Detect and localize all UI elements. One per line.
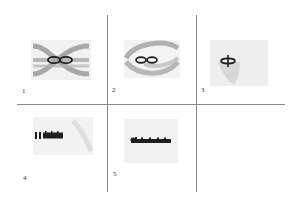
panel-2-image xyxy=(124,40,180,78)
panel-3: 3 xyxy=(197,15,285,104)
panel-4-label: 4 xyxy=(23,175,27,182)
panel-1-label: 1 xyxy=(22,88,26,95)
panel-4: 4 xyxy=(17,105,107,192)
panel-2: 2 xyxy=(108,15,196,104)
panel-3-image xyxy=(210,40,268,86)
panel-5: 5 xyxy=(108,105,196,192)
panel-2-label: 2 xyxy=(112,87,116,94)
panel-6-empty xyxy=(197,105,285,192)
panel-5-label: 5 xyxy=(113,171,117,178)
panel-1-image xyxy=(31,40,91,80)
panel-4-image xyxy=(33,115,93,157)
panel-1: 1 xyxy=(17,15,107,104)
panel-5-image xyxy=(124,119,178,163)
panel-3-label: 3 xyxy=(201,87,205,94)
